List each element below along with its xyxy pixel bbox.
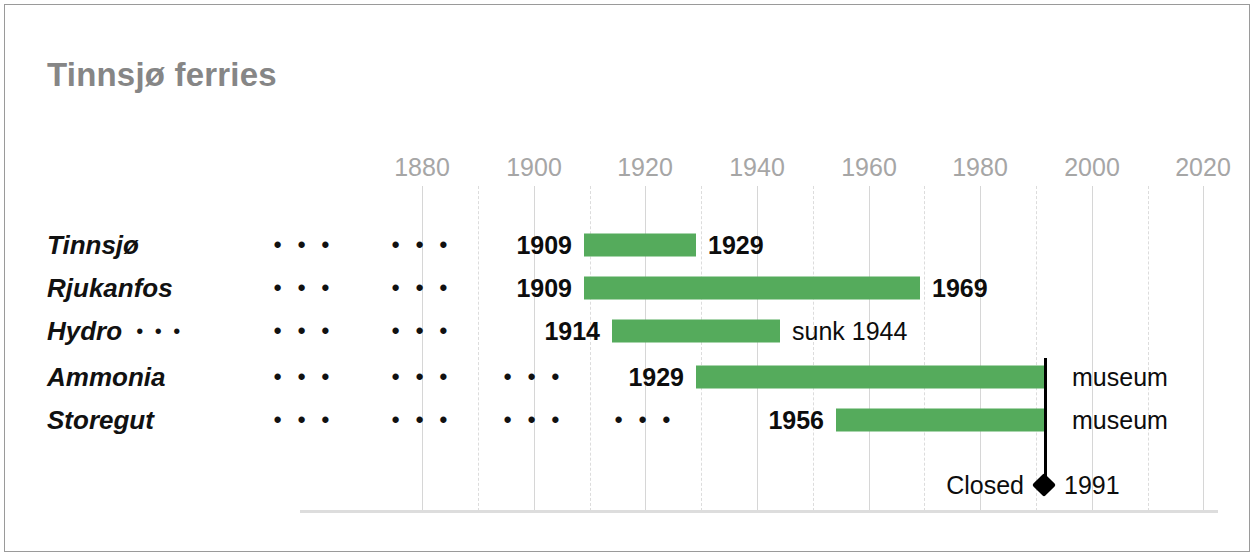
- bar-end-label: museum: [1072, 406, 1168, 435]
- row-ellipsis-marker: • • •: [274, 234, 334, 256]
- chart-root: Tinnsjø ferries 188019001920194019601980…: [0, 0, 1256, 558]
- row-ellipsis-marker: • • •: [274, 366, 334, 388]
- closed-label: Closed: [946, 471, 1024, 500]
- axis-tick-label: 1920: [617, 153, 673, 182]
- row-ellipsis-marker: • • •: [504, 366, 564, 388]
- gridline-minor: [1036, 186, 1037, 511]
- axis-tick-label: 1940: [729, 153, 785, 182]
- row-label-ammonia: Ammonia: [47, 362, 165, 393]
- timeline-bar-rjukanfos: [584, 277, 920, 300]
- row-label-hydro: Hydro• • •: [47, 316, 183, 347]
- row-label-tinnsjø: Tinnsjø: [47, 230, 139, 261]
- axis-tick-label: 2000: [1064, 153, 1120, 182]
- gridline-minor: [701, 186, 702, 511]
- row-ellipsis-marker: • • •: [392, 409, 452, 431]
- axis-tick-label: 1980: [952, 153, 1008, 182]
- gridline-major: [1203, 186, 1204, 511]
- timeline-bar-ammonia: [696, 366, 1044, 389]
- row-ellipsis-marker: • • •: [392, 366, 452, 388]
- axis-tick-label: 2020: [1175, 153, 1231, 182]
- row-ellipsis-marker: • • •: [274, 409, 334, 431]
- row-ellipsis-marker: • • •: [615, 409, 675, 431]
- row-label-storegut: Storegut: [47, 405, 154, 436]
- bar-end-label: museum: [1072, 363, 1168, 392]
- bar-start-label: 1956: [768, 406, 824, 435]
- gridline-major: [869, 186, 870, 511]
- axis-tick-label: 1900: [506, 153, 562, 182]
- row-label-text: Storegut: [47, 405, 154, 435]
- row-label-text: Tinnsjø: [47, 230, 139, 260]
- gridline-major: [980, 186, 981, 511]
- row-label-text: Hydro: [47, 316, 122, 346]
- closed-year-label: 1991: [1064, 471, 1120, 500]
- row-ellipsis-marker: • • •: [274, 320, 334, 342]
- gridline-minor: [1148, 186, 1149, 511]
- row-ellipsis-marker: • • •: [392, 320, 452, 342]
- row-ellipsis-marker: • • •: [504, 409, 564, 431]
- bar-start-label: 1929: [628, 363, 684, 392]
- timeline-bar-hydro: [612, 320, 780, 343]
- gridline-minor: [813, 186, 814, 511]
- gridline-minor: [478, 186, 479, 511]
- bar-end-label: sunk 1944: [792, 317, 907, 346]
- row-label-rjukanfos: Rjukanfos: [47, 273, 173, 304]
- row-label-text: Ammonia: [47, 362, 165, 392]
- bar-start-label: 1909: [516, 231, 572, 260]
- timeline-bar-storegut: [836, 409, 1044, 432]
- gridline-minor: [924, 186, 925, 511]
- timeline-bar-tinnsjø: [584, 234, 696, 257]
- axis-tick-label: 1960: [841, 153, 897, 182]
- bar-end-label: 1969: [932, 274, 988, 303]
- row-ellipsis-marker: • • •: [392, 277, 452, 299]
- bar-start-label: 1914: [544, 317, 600, 346]
- gridline-major: [1092, 186, 1093, 511]
- bar-start-label: 1909: [516, 274, 572, 303]
- row-ellipsis-marker: • • •: [392, 234, 452, 256]
- axis-baseline: [300, 510, 1218, 513]
- row-label-text: Rjukanfos: [47, 273, 173, 303]
- timeline-plot-area: 18801900192019401960198020002020Tinnsjø•…: [0, 0, 1256, 558]
- bar-end-label: 1929: [708, 231, 764, 260]
- row-label-ellipsis: • • •: [122, 320, 183, 342]
- row-ellipsis-marker: • • •: [274, 277, 334, 299]
- axis-tick-label: 1880: [394, 153, 450, 182]
- closed-vertical-line: [1044, 358, 1047, 485]
